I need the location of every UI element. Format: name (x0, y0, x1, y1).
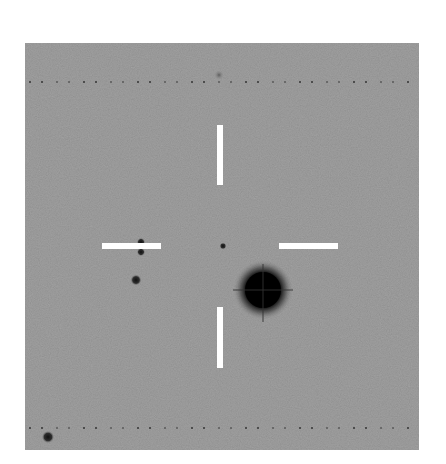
crosshair-top-marker (217, 125, 223, 185)
sky-background (25, 43, 419, 450)
crosshair-left-marker (102, 243, 161, 249)
crosshair-bottom-marker (217, 307, 223, 368)
crosshair-right-marker (279, 243, 338, 249)
astronomical-image (25, 43, 419, 450)
